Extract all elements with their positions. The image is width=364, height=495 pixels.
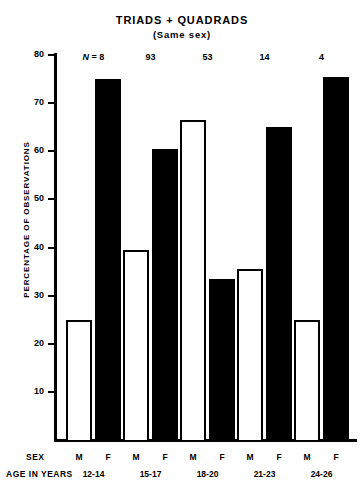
y-tick-20: [48, 343, 54, 345]
sex-label-12-14-F: F: [95, 452, 121, 462]
age-label-15-17: 15-17: [123, 469, 178, 479]
bar-12-14-F: [95, 79, 121, 440]
y-tick-label-50: 50: [14, 193, 44, 203]
y-tick-60: [48, 150, 54, 152]
bar-24-26-M: [294, 320, 320, 440]
group-count-24-26: 4: [294, 52, 349, 62]
bar-15-17-F: [152, 149, 178, 440]
sex-label-15-17-M: M: [123, 452, 149, 462]
age-row-header: AGE IN YEARS: [6, 469, 73, 479]
group-count-12-14: N = 8: [66, 52, 121, 62]
y-tick-30: [48, 295, 54, 297]
bar-chart: TRIADS + QUADRADS (Same sex) PERCENTAGE …: [0, 0, 364, 495]
age-label-18-20: 18-20: [180, 469, 235, 479]
y-tick-80: [48, 54, 54, 56]
age-label-24-26: 24-26: [294, 469, 349, 479]
y-tick-70: [48, 102, 54, 104]
chart-subtitle: (Same sex): [0, 29, 364, 40]
sex-label-24-26-M: M: [294, 452, 320, 462]
bar-21-23-F: [266, 127, 292, 440]
age-label-12-14: 12-14: [66, 469, 121, 479]
bar-15-17-M: [123, 250, 149, 440]
group-count-15-17: 93: [123, 52, 178, 62]
sex-label-18-20-F: F: [209, 452, 235, 462]
sex-row-header: SEX: [26, 452, 45, 462]
y-tick-label-30: 30: [14, 290, 44, 300]
bar-12-14-M: [66, 320, 92, 440]
y-tick-label-40: 40: [14, 242, 44, 252]
y-axis-line: [54, 53, 57, 442]
y-tick-label-80: 80: [14, 49, 44, 59]
sex-label-15-17-F: F: [152, 452, 178, 462]
y-tick-label-20: 20: [14, 338, 44, 348]
y-tick-10: [48, 391, 54, 393]
group-count-18-20: 53: [180, 52, 235, 62]
group-count-21-23: 14: [237, 52, 292, 62]
bar-18-20-F: [209, 279, 235, 440]
sex-label-21-23-M: M: [237, 452, 263, 462]
y-tick-label-60: 60: [14, 145, 44, 155]
sex-label-12-14-M: M: [66, 452, 92, 462]
chart-title: TRIADS + QUADRADS: [0, 14, 364, 26]
bar-18-20-M: [180, 120, 206, 440]
sex-label-24-26-F: F: [323, 452, 349, 462]
y-tick-50: [48, 198, 54, 200]
sex-label-18-20-M: M: [180, 452, 206, 462]
sex-label-21-23-F: F: [266, 452, 292, 462]
bar-24-26-F: [323, 77, 349, 440]
y-tick-label-10: 10: [14, 386, 44, 396]
y-tick-40: [48, 247, 54, 249]
age-label-21-23: 21-23: [237, 469, 292, 479]
bar-21-23-M: [237, 269, 263, 440]
y-tick-label-70: 70: [14, 97, 44, 107]
